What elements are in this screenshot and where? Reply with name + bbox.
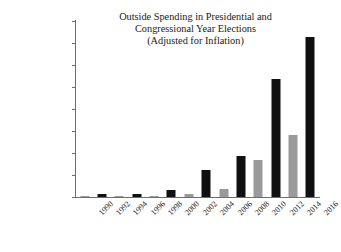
bar-2016[interactable] [306,37,315,197]
x-tick-label-2002: 2002 [202,200,219,217]
bar-slot-2012 [267,21,284,197]
bar-slot-1990 [76,21,93,197]
x-tick-label-2006: 2006 [236,200,253,217]
bar-slot-1992 [93,21,110,197]
bar-slot-1994 [111,21,128,197]
x-tick-label-2008: 2008 [254,200,271,217]
x-tick-label-1992: 1992 [115,200,132,217]
bar-slot-2016 [302,21,319,197]
x-tick-label-2004: 2004 [219,200,236,217]
x-tick-label-2000: 2000 [184,200,201,217]
x-tick-label-1994: 1994 [132,200,149,217]
bar-slot-1996 [128,21,145,197]
x-tick-label-1990: 1990 [97,200,114,217]
bar-slot-2002 [180,21,197,197]
bar-slot-2000 [163,21,180,197]
bar-1990[interactable] [80,196,89,197]
bar-1992[interactable] [98,194,107,197]
bar-slot-1998 [145,21,162,197]
bar-slot-2010 [250,21,267,197]
x-tick-label-2014: 2014 [306,200,323,217]
bar-2010[interactable] [254,160,263,197]
bar-slot-2006 [215,21,232,197]
x-tick-label-1998: 1998 [167,200,184,217]
bar-1994[interactable] [115,196,124,197]
bar-slot-2008 [232,21,249,197]
bar-2004[interactable] [202,170,211,197]
x-tick-label-2012: 2012 [288,200,305,217]
x-tick-label-2010: 2010 [271,200,288,217]
bar-1996[interactable] [132,194,141,197]
x-axis-labels: 1990199219941996199820002002200420062008… [76,198,319,252]
x-tick-label-1996: 1996 [150,200,167,217]
bar-2014[interactable] [288,135,297,197]
bar-series [76,21,319,197]
bar-2006[interactable] [219,189,228,197]
bar-slot-2004 [198,21,215,197]
bar-2012[interactable] [271,79,280,197]
bar-2000[interactable] [167,190,176,197]
bar-slot-2014 [284,21,301,197]
plot-area [76,21,319,197]
bar-2008[interactable] [236,156,245,197]
bar-1998[interactable] [150,196,159,197]
bar-2002[interactable] [184,194,193,197]
x-tick-label-2016: 2016 [323,200,340,217]
